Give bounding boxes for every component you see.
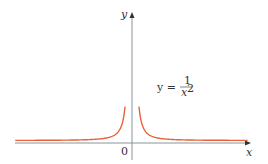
x-axis-arrow-icon (245, 141, 251, 146)
chart: y x 0 y = 1 x 2 (0, 0, 268, 164)
y-axis-label: y (120, 8, 128, 21)
equation-lhs: y = (156, 81, 176, 94)
origin-label: 0 (121, 145, 128, 158)
equation-label: y = 1 x 2 (156, 74, 194, 99)
curve-right (139, 107, 248, 141)
curve-left (15, 107, 125, 141)
x-axis-label: x (246, 146, 253, 159)
equation-exponent: 2 (187, 82, 194, 95)
y-axis-arrow-icon (130, 12, 135, 18)
